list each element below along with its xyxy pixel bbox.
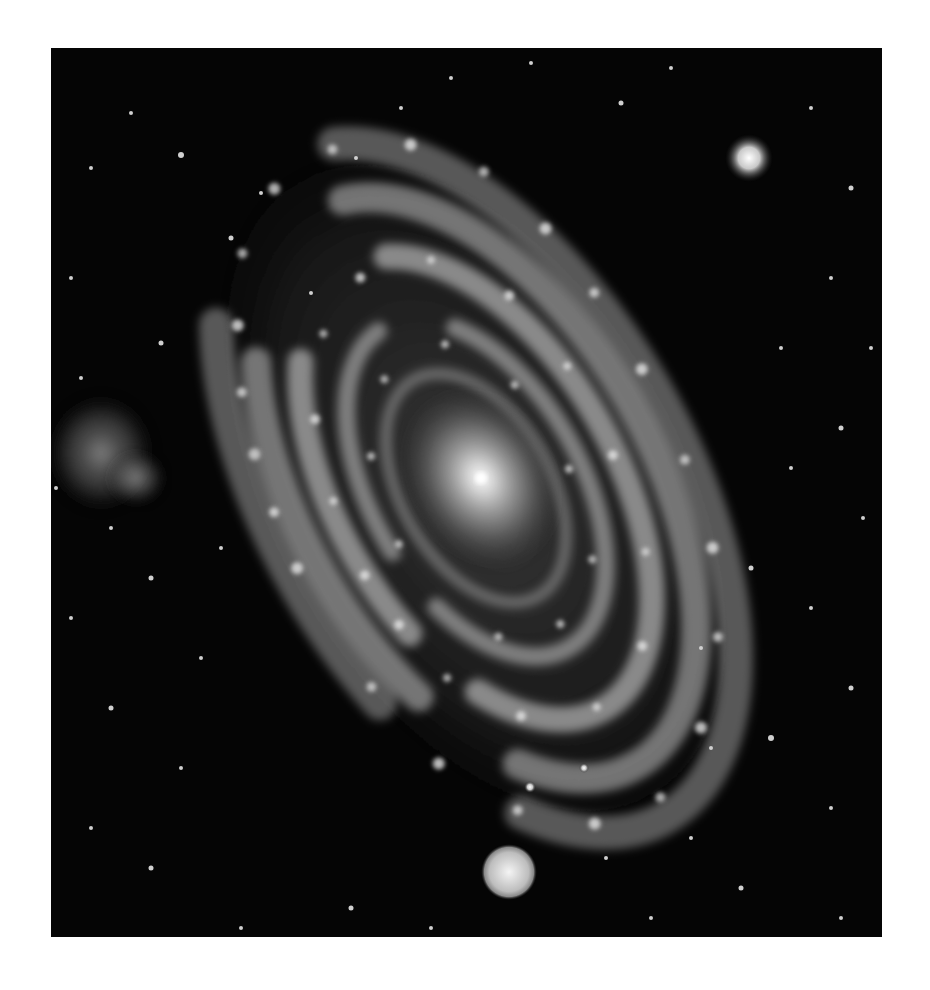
companion-nebula — [51, 393, 166, 513]
galaxy-illustration — [51, 48, 882, 937]
galaxy-photo — [51, 48, 882, 937]
